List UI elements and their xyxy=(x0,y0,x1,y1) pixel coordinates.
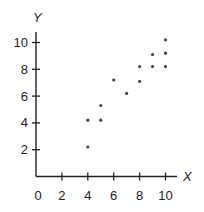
axis-ticks xyxy=(32,43,166,181)
data-point xyxy=(86,145,89,148)
data-point xyxy=(164,38,167,41)
y-axis-label: Y xyxy=(33,10,43,25)
x-tick-label: 6 xyxy=(110,188,117,203)
x-tick-label: 0 xyxy=(34,188,41,203)
tick-labels: 2468100246810 xyxy=(14,35,173,203)
data-point xyxy=(151,53,154,56)
data-point xyxy=(151,65,154,68)
y-tick-label: 6 xyxy=(21,89,28,104)
data-point xyxy=(99,119,102,122)
y-tick-label: 4 xyxy=(21,115,28,130)
data-point xyxy=(164,65,167,68)
data-points xyxy=(86,38,167,148)
data-point xyxy=(138,65,141,68)
x-axis-label: X xyxy=(182,169,193,184)
data-point xyxy=(164,52,167,55)
scatter-plot: 2468100246810 Y X xyxy=(0,0,204,212)
x-tick-label: 2 xyxy=(58,188,65,203)
data-point xyxy=(138,80,141,83)
x-tick-label: 8 xyxy=(136,188,143,203)
y-tick-label: 2 xyxy=(21,142,28,157)
axes xyxy=(36,32,177,177)
data-point xyxy=(99,104,102,107)
data-point xyxy=(125,92,128,95)
y-tick-label: 10 xyxy=(14,35,28,50)
y-tick-label: 8 xyxy=(21,62,28,77)
x-tick-label: 4 xyxy=(84,188,91,203)
data-point xyxy=(86,119,89,122)
x-tick-label: 10 xyxy=(158,188,172,203)
data-point xyxy=(112,78,115,81)
